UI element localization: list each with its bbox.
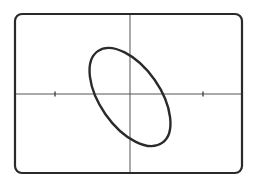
diagram-canvas <box>0 0 256 184</box>
figure <box>0 0 256 184</box>
